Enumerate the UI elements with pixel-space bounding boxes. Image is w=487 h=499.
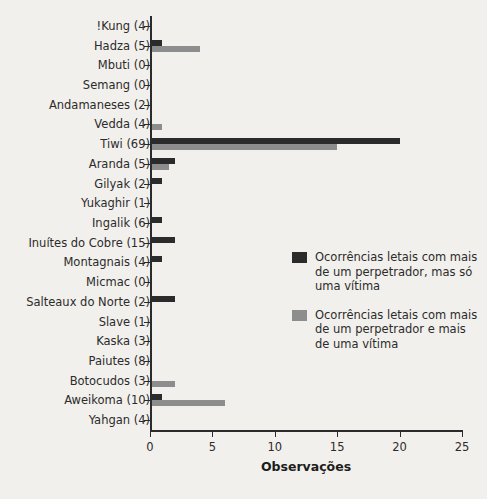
y-axis-category-label: Semang (0) [8, 78, 150, 92]
y-axis-category-label: Aweikoma (10) [8, 393, 150, 407]
legend-swatch-icon [292, 310, 307, 321]
y-axis-tick [144, 420, 150, 421]
x-axis-tick [212, 430, 213, 437]
bar-segment [150, 237, 175, 243]
y-axis-category-label: Montagnais (4) [8, 255, 150, 269]
y-axis-tick [144, 46, 150, 47]
y-axis-category-label: Mbuti (0) [8, 58, 150, 72]
bar-segment [150, 46, 200, 52]
y-axis-tick [144, 341, 150, 342]
y-axis-category-label: Botocudos (3) [8, 374, 150, 388]
y-axis-category-label: Yahgan (4) [8, 413, 150, 427]
y-axis-category-label: Micmac (0) [8, 275, 150, 289]
y-axis-tick [144, 26, 150, 27]
y-axis-category-label: Andamaneses (2) [8, 98, 150, 112]
y-axis-tick [144, 105, 150, 106]
y-axis-category-label: Salteaux do Norte (2) [8, 295, 150, 309]
x-axis-tick [150, 430, 151, 437]
x-axis-tick-label: 20 [392, 440, 407, 454]
y-axis-tick [144, 203, 150, 204]
y-axis-tick [144, 400, 150, 401]
bar-segment [150, 296, 175, 302]
y-axis-category-label: Aranda (5) [8, 157, 150, 171]
x-axis-tick [400, 430, 401, 437]
y-axis-category-label: Yukaghir (1) [8, 196, 150, 210]
y-axis-tick [144, 144, 150, 145]
x-axis-tick-label: 15 [330, 440, 345, 454]
legend-item-label: Ocorrências letais com mais de um perpet… [315, 308, 482, 352]
y-axis-tick [144, 164, 150, 165]
bar-segment [150, 381, 175, 387]
y-axis-tick [144, 262, 150, 263]
y-axis-category-labels: !Kung (4)Hadza (5)Mbuti (0)Semang (0)And… [0, 0, 150, 499]
y-axis-tick [144, 184, 150, 185]
y-axis-tick [144, 361, 150, 362]
bar-segment [150, 144, 337, 150]
y-axis-category-label: Paiutes (8) [8, 354, 150, 368]
y-axis-tick [144, 124, 150, 125]
y-axis-tick [144, 243, 150, 244]
x-axis-title: Observações [150, 459, 462, 474]
x-axis-tick-label: 10 [267, 440, 282, 454]
plot-area [150, 16, 462, 430]
x-axis-tick-label: 0 [146, 440, 153, 454]
bar-chart: !Kung (4)Hadza (5)Mbuti (0)Semang (0)And… [0, 0, 487, 499]
y-axis-line [150, 16, 152, 430]
x-axis-tick-label: 25 [455, 440, 470, 454]
x-axis-tick [462, 430, 463, 437]
y-axis-category-label: Ingalik (6) [8, 216, 150, 230]
x-axis-tick [337, 430, 338, 437]
y-axis-category-label: Gilyak (2) [8, 177, 150, 191]
legend-item: Ocorrências letais com mais de um perpet… [292, 250, 482, 294]
legend-item-label: Ocorrências letais com mais de um perpet… [315, 250, 482, 294]
legend-swatch-icon [292, 252, 307, 263]
chart-legend: Ocorrências letais com mais de um perpet… [292, 250, 482, 365]
y-axis-category-label: Hadza (5) [8, 39, 150, 53]
legend-item: Ocorrências letais com mais de um perpet… [292, 308, 482, 352]
y-axis-tick [144, 85, 150, 86]
y-axis-tick [144, 302, 150, 303]
y-axis-category-label: Kaska (3) [8, 334, 150, 348]
bar-segment [150, 164, 169, 170]
y-axis-category-label: Inuítes do Cobre (15) [8, 236, 150, 250]
x-axis-tick-label: 5 [209, 440, 216, 454]
y-axis-tick [144, 381, 150, 382]
y-axis-tick [144, 282, 150, 283]
x-axis-line [150, 430, 462, 432]
y-axis-category-label: Vedda (4) [8, 117, 150, 131]
x-axis-tick [275, 430, 276, 437]
bar-segment [150, 400, 225, 406]
y-axis-category-label: !Kung (4) [8, 19, 150, 33]
y-axis-tick [144, 223, 150, 224]
y-axis-category-label: Slave (1) [8, 315, 150, 329]
y-axis-category-label: Tiwi (69) [8, 137, 150, 151]
y-axis-tick [144, 322, 150, 323]
y-axis-tick [144, 65, 150, 66]
